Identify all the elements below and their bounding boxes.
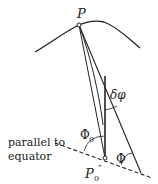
label-phi: Φ bbox=[116, 152, 126, 166]
diagram-canvas: P δφ Φ 0 Φ P 0 ″ parallel to equator bbox=[0, 0, 158, 184]
label-delta-phi: δφ bbox=[110, 88, 126, 102]
label-p0-prime: ″ bbox=[98, 163, 102, 174]
label-parallel-line1: parallel to bbox=[8, 136, 65, 149]
label-p0: P bbox=[84, 166, 94, 181]
label-p: P bbox=[76, 6, 86, 21]
curve bbox=[35, 21, 140, 52]
point-p0-marker bbox=[103, 156, 107, 160]
arc-delta-phi bbox=[105, 106, 117, 110]
label-p0-sub: 0 bbox=[94, 174, 99, 183]
point-p-marker bbox=[77, 23, 81, 27]
label-parallel-line2: equator bbox=[8, 150, 52, 163]
label-phi0-sub: 0 bbox=[89, 135, 94, 144]
